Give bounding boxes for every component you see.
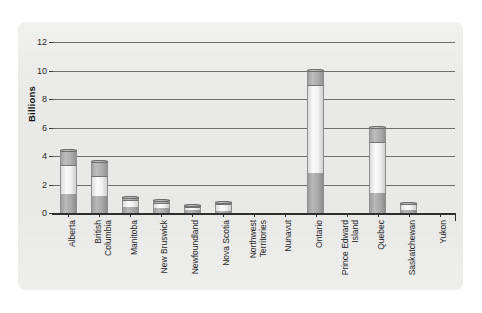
bar-segment-middle [369,142,386,193]
bar-cap [215,201,232,204]
y-tick-mark-12 [49,42,53,43]
x-tick-mark [223,213,224,217]
bar-segment-top [307,71,324,85]
bar-segment-middle [215,204,232,210]
bar-new-bruswick[interactable] [153,200,170,213]
y-tick-mark-6 [49,128,53,129]
gridline-4 [53,156,455,157]
y-tick-label-6: 6 [42,123,47,132]
x-label-text: BritishColumbia [94,220,113,256]
x-tick-mark [285,213,286,217]
x-label-text: Newfoundland [191,220,201,274]
bar-segment-bottom [91,196,108,213]
bar-segment-middle [307,85,324,173]
bar-segment-top [91,162,108,176]
bar-cap [184,204,201,207]
y-tick-mark-10 [49,71,53,72]
bar-cap [91,160,108,163]
gridline-8 [53,99,455,100]
y-tick-label-0: 0 [42,209,47,218]
y-tick-mark-4 [49,156,53,157]
y-tick-label-10: 10 [37,66,47,75]
bar-quebec[interactable] [369,128,386,214]
x-label-text: Yukon [439,220,449,244]
bar-cap [153,199,170,202]
bar-nova-scotia[interactable] [215,202,232,213]
x-tick-mark [130,213,131,217]
x-label-text: Nunavut [284,220,294,252]
bar-cap [307,69,324,72]
bar-alberta[interactable] [60,150,77,213]
y-tick-label-2: 2 [42,180,47,189]
x-label-text: Nova Scotia [222,220,232,266]
bar-cap [60,149,77,152]
bar-segment-middle [400,204,417,210]
x-label-text: Alberta [68,220,78,247]
x-tick-mark [440,213,441,217]
bar-newfoundland[interactable] [184,206,201,213]
x-label-text: New Bruswick [160,220,170,273]
gridline-10 [53,71,455,72]
y-tick-label-12: 12 [37,38,47,47]
bar-segment-middle [91,176,108,196]
bar-saskatchewan[interactable] [400,203,417,213]
x-tick-mark [347,213,348,217]
bar-segment-middle [122,200,139,207]
bar-segment-top [60,150,77,164]
bar-cap [122,196,139,199]
x-tick-mark [316,213,317,217]
bar-segment-middle [60,165,77,195]
x-label-text: Quebec [377,220,387,250]
gridline-2 [53,185,455,186]
bar-segment-bottom [307,173,324,213]
bar-manitoba[interactable] [122,197,139,213]
bar-segment-middle [153,203,170,208]
gridline-6 [53,128,455,129]
bar-segment-top [369,128,386,142]
x-tick-mark [254,213,255,217]
bar-segment-bottom [369,193,386,213]
x-axis-end-tick [455,213,457,221]
bar-cap [400,202,417,205]
x-tick-mark [378,213,379,217]
x-tick-mark [409,213,410,217]
y-tick-label-8: 8 [42,95,47,104]
y-axis-title: Billions [26,86,37,122]
x-label-text: Manitoba [130,220,140,255]
bar-cap [369,126,386,129]
x-label-text: Saskatchewan [408,220,418,275]
y-tick-mark-8 [49,99,53,100]
bar-british-columbia[interactable] [91,162,108,213]
x-tick-mark [161,213,162,217]
x-label-text: Prince EdwardIsland [341,220,360,275]
gridline-12 [53,42,455,43]
y-tick-mark-2 [49,185,53,186]
plot-area: 024681012 AlbertaBritishColumbiaManitoba… [53,42,455,213]
x-tick-mark [68,213,69,217]
y-tick-label-4: 4 [42,152,47,161]
chart-figure: Billions 024681012 AlbertaBritishColumbi… [0,0,482,313]
bar-ontario[interactable] [307,71,324,214]
bar-segment-middle [184,207,201,210]
x-tick-mark [192,213,193,217]
x-label-text: NorthwestTerritories [249,220,268,258]
bar-segment-bottom [60,194,77,213]
x-label-text: Ontario [315,220,325,248]
x-tick-mark [99,213,100,217]
